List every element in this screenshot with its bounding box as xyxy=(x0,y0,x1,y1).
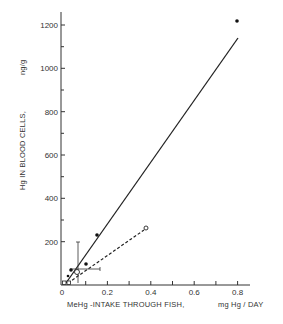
x-ticks xyxy=(86,281,238,285)
svg-text:0.2: 0.2 xyxy=(102,288,114,297)
y-ticks xyxy=(61,25,65,242)
svg-text:800: 800 xyxy=(45,108,59,117)
svg-text:600: 600 xyxy=(45,151,59,160)
data-point-filled xyxy=(235,19,239,23)
data-point-open xyxy=(75,270,80,275)
svg-text:0.8: 0.8 xyxy=(232,288,244,297)
svg-text:1000: 1000 xyxy=(40,64,58,73)
solid-regression-line xyxy=(66,38,238,283)
data-point-filled xyxy=(67,275,70,278)
svg-text:400: 400 xyxy=(45,194,59,203)
y-axis-label: Hg IN BLOOD CELLS, xyxy=(18,111,27,190)
x-axis-label: MeHg -INTAKE THROUGH FISH, xyxy=(67,300,184,309)
svg-text:1200: 1200 xyxy=(40,21,58,30)
x-axis-unit: mg Hg / DAY xyxy=(218,300,263,309)
data-point-open xyxy=(144,226,148,230)
svg-text:0.4: 0.4 xyxy=(145,288,157,297)
y-axis-unit: ng/g xyxy=(18,60,27,75)
data-point-square xyxy=(63,281,67,285)
svg-text:0: 0 xyxy=(60,288,65,297)
y-tick-labels: 200 400 600 800 1000 1200 xyxy=(40,21,58,247)
svg-text:0.6: 0.6 xyxy=(189,288,201,297)
svg-text:200: 200 xyxy=(45,238,59,247)
chart: 200 400 600 800 1000 1200 0 0.2 0.4 0.6 … xyxy=(0,0,283,324)
data-point-filled xyxy=(84,262,88,266)
x-tick-labels: 0 0.2 0.4 0.6 0.8 xyxy=(60,288,244,297)
data-point-filled xyxy=(69,268,73,272)
data-point-square xyxy=(67,281,71,285)
data-point-filled xyxy=(95,233,99,237)
dashed-regression-line xyxy=(68,230,144,283)
